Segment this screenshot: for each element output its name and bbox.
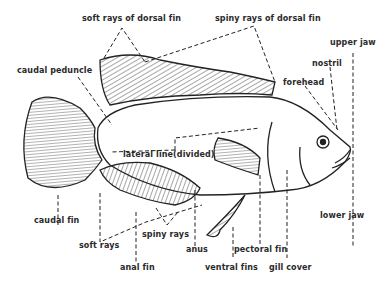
label-spiny-rays-dorsal-fin: spiny rays of dorsal fin [215, 14, 321, 23]
label-soft-rays: soft rays [79, 241, 119, 250]
label-ventral-fins: ventral fins [205, 263, 258, 272]
label-lateral-line: lateral line(divided) [123, 150, 215, 159]
label-anus: anus [186, 245, 208, 254]
ventral-fin [207, 195, 245, 237]
label-forehead: forehead [283, 78, 324, 87]
fish-anatomy-diagram: soft rays of dorsal fin spiny rays of do… [0, 0, 390, 286]
label-gill-cover: gill cover [269, 263, 312, 272]
label-nostril: nostril [312, 59, 342, 68]
label-spiny-rays: spiny rays [142, 230, 189, 239]
label-soft-rays-dorsal-fin: soft rays of dorsal fin [82, 14, 181, 23]
label-pectoral-fin: pectoral fin [234, 245, 287, 254]
label-anal-fin: anal fin [120, 263, 155, 272]
label-lower-jaw: lower jaw [320, 211, 364, 220]
caudal-fin [24, 97, 102, 187]
label-caudal-peduncle: caudal peduncle [17, 66, 92, 75]
label-caudal-fin: caudal fin [34, 216, 79, 225]
label-upper-jaw: upper jaw [330, 38, 376, 47]
